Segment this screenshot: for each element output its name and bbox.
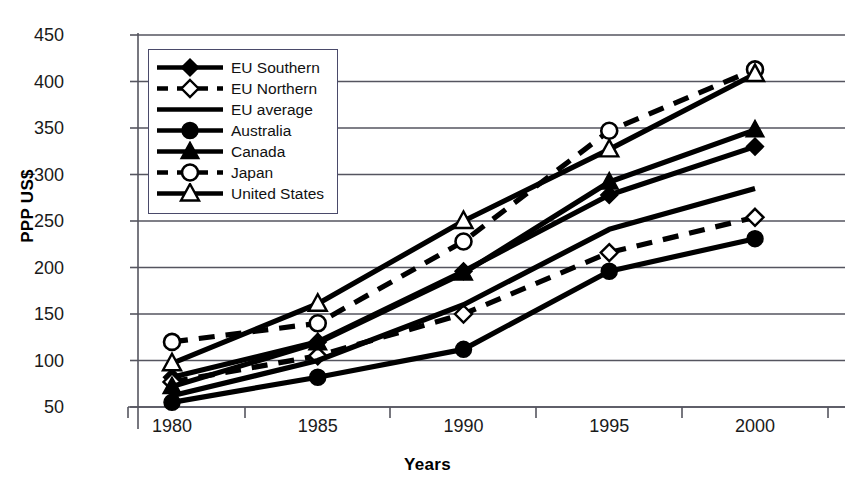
x-tick-label: 1990	[443, 416, 483, 437]
marker-open-diamond	[747, 209, 764, 226]
y-axis-title: PPP US$	[18, 136, 38, 276]
y-tick-label: 450	[18, 25, 64, 46]
marker-open-circle	[310, 315, 326, 331]
legend-symbol-icon	[149, 78, 231, 99]
plot-area	[0, 0, 855, 491]
data-point	[164, 394, 180, 410]
marker-open-circle	[164, 334, 180, 350]
marker-filled-circle	[456, 341, 472, 357]
legend-marker	[182, 165, 198, 181]
y-tick-label: 50	[18, 397, 64, 418]
data-point	[456, 341, 472, 357]
marker-open-circle	[456, 233, 472, 249]
x-tick-label: 1995	[589, 416, 629, 437]
data-point	[601, 263, 617, 279]
x-tick-label: 1985	[298, 416, 338, 437]
data-point	[601, 123, 617, 139]
legend-label: United States	[231, 183, 324, 204]
data-point	[310, 369, 326, 385]
legend-label: EU Northern	[231, 78, 317, 99]
data-point	[601, 244, 618, 261]
legend-marker	[182, 59, 199, 76]
x-tick-label: 1980	[152, 416, 192, 437]
legend-symbol	[149, 162, 231, 183]
legend-item-canada: Canada	[149, 141, 339, 162]
chart-legend: EU SouthernEU NorthernEU averageAustrali…	[148, 49, 338, 214]
data-point	[456, 233, 472, 249]
legend-label: EU Southern	[231, 57, 320, 78]
legend-symbol-icon	[149, 141, 231, 162]
legend-item-australia: Australia	[149, 120, 339, 141]
y-tick-label: 400	[18, 71, 64, 92]
x-axis-title: Years	[0, 455, 855, 475]
legend-symbol	[149, 183, 231, 204]
legend-item-eu-northern: EU Northern	[149, 78, 339, 99]
marker-filled-circle	[182, 123, 198, 139]
legend-item-eu-average: EU average	[149, 99, 339, 120]
legend-symbol	[149, 141, 231, 162]
marker-open-circle	[182, 165, 198, 181]
marker-filled-circle	[310, 369, 326, 385]
legend-item-eu-southern: EU Southern	[149, 57, 339, 78]
marker-filled-diamond	[747, 138, 764, 155]
marker-open-diamond	[601, 244, 618, 261]
legend-label: EU average	[231, 99, 313, 120]
marker-filled-diamond	[182, 59, 199, 76]
data-point	[164, 334, 180, 350]
legend-marker	[182, 80, 199, 97]
y-tick-label: 100	[18, 350, 64, 371]
marker-filled-circle	[747, 231, 763, 247]
marker-open-diamond	[182, 80, 199, 97]
y-tick-label: 150	[18, 304, 64, 325]
legend-symbol-icon	[149, 57, 231, 78]
x-tick-label: 2000	[735, 416, 775, 437]
legend-label: Australia	[231, 120, 291, 141]
legend-item-united-states: United States	[149, 183, 339, 204]
marker-open-circle	[601, 123, 617, 139]
legend-label: Canada	[231, 141, 285, 162]
marker-filled-circle	[164, 394, 180, 410]
legend-symbol	[149, 120, 231, 141]
legend-item-japan: Japan	[149, 162, 339, 183]
legend-marker	[182, 123, 198, 139]
legend-symbol-icon	[149, 99, 231, 120]
legend-symbol-icon	[149, 183, 231, 204]
data-point	[747, 231, 763, 247]
data-point	[747, 138, 764, 155]
legend-label: Japan	[231, 162, 273, 183]
data-point	[747, 209, 764, 226]
marker-filled-circle	[601, 263, 617, 279]
legend-symbol	[149, 57, 231, 78]
legend-symbol	[149, 78, 231, 99]
legend-symbol-icon	[149, 162, 231, 183]
data-point	[310, 315, 326, 331]
legend-symbol	[149, 99, 231, 120]
legend-symbol-icon	[149, 120, 231, 141]
line-chart: 45040035030025020015010050 1980198519901…	[0, 0, 855, 491]
